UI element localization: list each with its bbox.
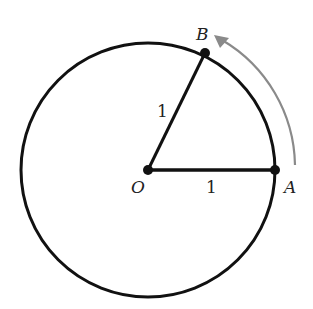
unit-circle-diagram: O A B 1 1 (0, 0, 313, 309)
point-a (270, 165, 280, 175)
arrowhead-icon (214, 35, 229, 48)
point-o (143, 165, 153, 175)
label-b: B (195, 24, 209, 44)
length-label-ob: 1 (157, 101, 168, 121)
arrow-arc (222, 40, 295, 165)
length-label-oa: 1 (206, 177, 217, 197)
diagram-canvas: O A B 1 1 (0, 0, 313, 309)
label-a: A (282, 177, 296, 197)
label-o: O (131, 177, 145, 197)
point-b (200, 48, 210, 58)
